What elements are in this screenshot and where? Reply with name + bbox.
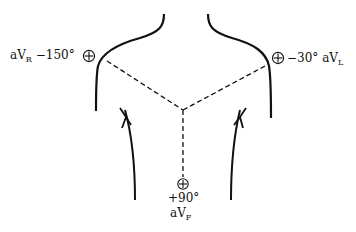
aVL-subscript: L <box>338 58 343 67</box>
aVL-prefix: aV <box>322 51 338 65</box>
left-neck-shoulder-outline <box>96 14 164 111</box>
aVF-subscript: F <box>186 213 192 222</box>
aVR-lead-line <box>107 61 183 110</box>
aVR-prefix: aV <box>10 48 26 62</box>
aVR-angle: −150° <box>36 48 75 62</box>
aVF-positive-electrode-icon <box>178 179 188 189</box>
right-neck-shoulder-outline <box>208 14 271 118</box>
aVL-positive-electrode-icon <box>272 52 283 63</box>
aVF-label: aVF <box>170 207 191 219</box>
aVL-lead-line <box>183 66 265 110</box>
aVF-angle: +90° <box>168 192 199 204</box>
aVR-positive-electrode-icon <box>83 50 94 61</box>
aVF-prefix: aV <box>170 206 186 220</box>
aVL-label: −30° aVL <box>287 52 343 64</box>
aVR-label: aVR −150° <box>10 49 75 61</box>
aVL-angle: −30° <box>287 51 318 65</box>
aVR-subscript: R <box>26 55 32 64</box>
